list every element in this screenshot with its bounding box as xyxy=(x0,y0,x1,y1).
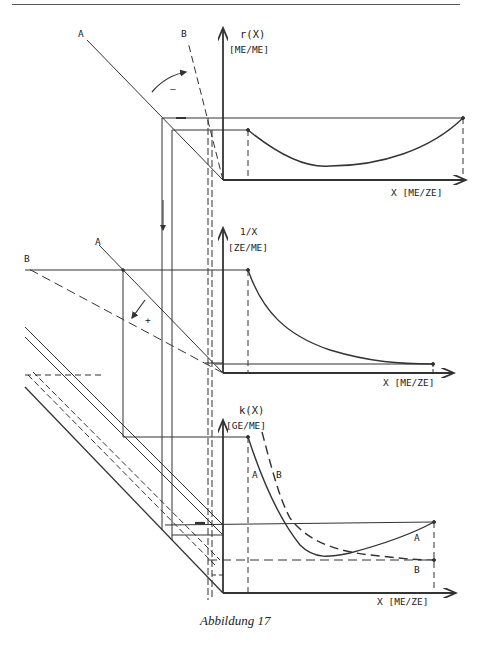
top-x-axis-label: X [ME/ZE] xyxy=(391,188,442,198)
top-y-axis-unit: [ME/ME] xyxy=(229,45,269,55)
diagonal-transfer-lines xyxy=(25,327,223,593)
bottom-curve-b-label-right: B xyxy=(414,565,420,575)
top-rotation-sign: – xyxy=(170,84,176,94)
middle-y-axis-unit: [ZE/ME] xyxy=(228,243,268,253)
top-chart xyxy=(87,28,466,180)
figure-caption: Abbildung 17 xyxy=(200,613,270,629)
middle-rotation-sign: + xyxy=(145,315,151,325)
top-y-axis-label: r(X) xyxy=(240,29,265,40)
middle-y-axis-label: 1/X xyxy=(240,227,257,237)
bottom-curve-a-label-right: A xyxy=(414,533,420,543)
bottom-curve-a-label: A xyxy=(252,470,258,480)
top-line-b-label: B xyxy=(181,29,187,39)
middle-line-b-label: B xyxy=(24,254,30,264)
middle-x-axis-label: X [ME/ZE] xyxy=(383,378,434,388)
top-line-a-label: A xyxy=(78,29,84,39)
bottom-y-axis-label: k(X) xyxy=(239,405,264,416)
bottom-y-axis-unit: [GE/ME] xyxy=(226,421,266,431)
four-quadrant-diagram xyxy=(0,0,479,645)
middle-line-a-label: A xyxy=(95,237,101,247)
bottom-chart xyxy=(123,420,456,593)
bottom-x-axis-label: X [ME/ZE] xyxy=(377,597,428,607)
bottom-curve-b-label: B xyxy=(276,470,282,480)
projection-lines xyxy=(162,118,212,600)
